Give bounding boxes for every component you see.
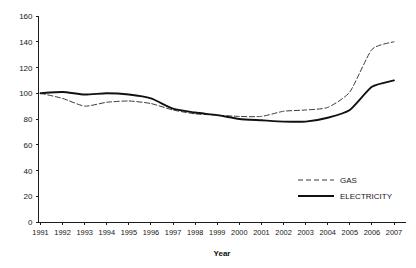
y-tick-group: 160140120100806040200 xyxy=(19,12,38,227)
x-tick-label: 2006 xyxy=(364,228,380,237)
x-tick-label: 2000 xyxy=(231,228,247,237)
x-tick-label: 2002 xyxy=(275,228,291,237)
x-tick-label: 1994 xyxy=(99,228,115,237)
y-tick-label: 0 xyxy=(28,218,33,227)
data-series-group xyxy=(41,42,395,122)
legend: GASELECTRICITY xyxy=(298,176,393,201)
x-tick-group: 1991199219931994199519961997199819992000… xyxy=(32,222,402,237)
y-tick-label: 40 xyxy=(24,167,33,176)
y-tick-label: 100 xyxy=(19,89,33,98)
y-tick-label: 120 xyxy=(19,64,33,73)
x-tick-label: 1996 xyxy=(143,228,159,237)
x-tick-label: 2004 xyxy=(319,228,335,237)
y-tick-label: 60 xyxy=(24,141,33,150)
y-tick-label: 160 xyxy=(19,12,33,21)
legend-label-gas: GAS xyxy=(340,176,357,185)
x-tick-label: 1998 xyxy=(187,228,203,237)
series-line-electricity xyxy=(41,80,395,121)
x-tick-label: 2007 xyxy=(386,228,402,237)
x-tick-label: 2001 xyxy=(253,228,269,237)
y-tick-label: 20 xyxy=(24,192,33,201)
x-axis: 1991199219931994199519961997199819992000… xyxy=(32,222,406,237)
y-tick-label: 140 xyxy=(19,38,33,47)
x-tick-label: 2005 xyxy=(342,228,358,237)
chart-canvas: 160140120100806040200 199119921993199419… xyxy=(0,0,416,268)
x-tick-label: 1995 xyxy=(121,228,137,237)
x-tick-label: 1991 xyxy=(32,228,48,237)
y-tick-label: 80 xyxy=(24,115,33,124)
x-tick-label: 1992 xyxy=(54,228,70,237)
x-tick-label: 1993 xyxy=(76,228,92,237)
line-chart: 160140120100806040200 199119921993199419… xyxy=(0,0,416,268)
legend-label-electricity: ELECTRICITY xyxy=(340,192,393,201)
series-line-gas xyxy=(41,42,395,117)
y-axis: 160140120100806040200 xyxy=(19,12,38,227)
x-tick-label: 1999 xyxy=(209,228,225,237)
x-axis-title: Year xyxy=(214,249,231,258)
x-tick-label: 1997 xyxy=(165,228,181,237)
x-tick-label: 2003 xyxy=(297,228,313,237)
